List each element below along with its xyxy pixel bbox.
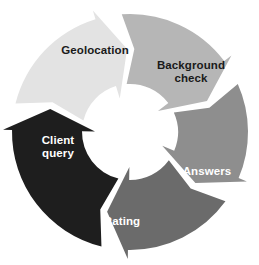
- segment-label-line: Client: [42, 134, 75, 146]
- segment-label-geolocation: Geolocation: [61, 44, 129, 56]
- cycle-segment-geolocation[interactable]: [16, 11, 128, 121]
- segment-label-rating: Rating: [104, 215, 140, 227]
- segment-label-line: Geolocation: [61, 44, 129, 56]
- cycle-diagram-canvas: GeolocationBackgroundcheckAnswersRatingC…: [0, 0, 259, 265]
- cycle-segment-client-query[interactable]: [3, 109, 118, 246]
- segment-label-line: Rating: [104, 215, 140, 227]
- segment-label-line: Background: [157, 59, 225, 71]
- segment-label-line: query: [42, 147, 74, 159]
- segment-label-line: check: [174, 72, 208, 84]
- segment-label-line: Answers: [183, 165, 232, 177]
- segment-label-client-query: Clientquery: [42, 134, 75, 159]
- cycle-diagram: GeolocationBackgroundcheckAnswersRatingC…: [0, 0, 259, 265]
- segment-label-answers: Answers: [183, 165, 232, 177]
